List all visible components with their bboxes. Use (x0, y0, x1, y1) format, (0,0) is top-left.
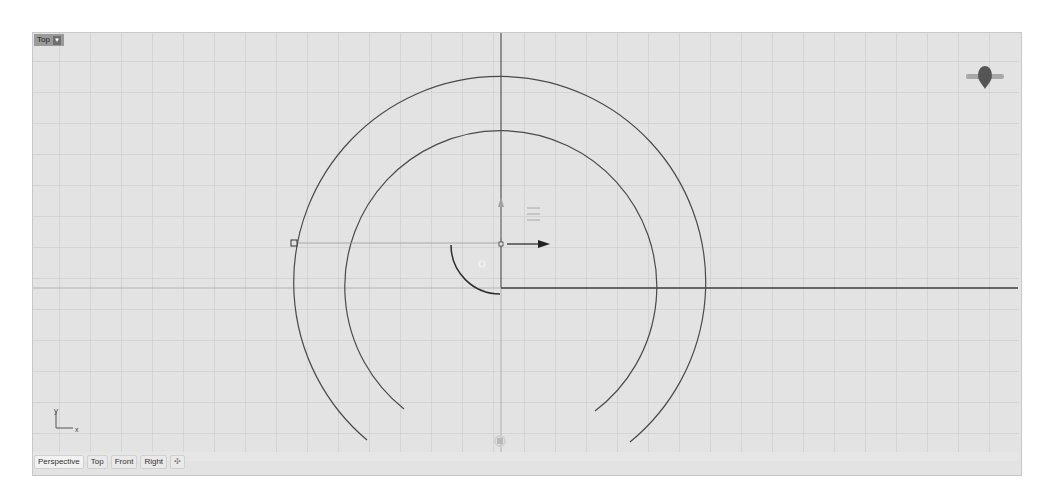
viewport-tabs: Perspective Top Front Right ✣ (34, 455, 185, 469)
viewport-canvas[interactable]: y x (33, 33, 1019, 461)
tab-right[interactable]: Right (140, 455, 167, 469)
axis-label-x: x (75, 426, 79, 433)
snap-point (497, 438, 503, 444)
viewport-title-dropdown[interactable]: Top ▼ (34, 34, 64, 46)
axis-label-y: y (54, 406, 58, 415)
control-point-grip[interactable] (291, 240, 297, 246)
grid (33, 33, 1019, 461)
plus-icon[interactable]: ✣ (170, 455, 185, 469)
tab-front[interactable]: Front (111, 455, 138, 469)
caret-down-icon: ▼ (53, 36, 61, 45)
viewport-title: Top (37, 34, 50, 46)
tab-perspective[interactable]: Perspective (34, 455, 84, 469)
gumball-center[interactable] (499, 242, 503, 246)
tab-top[interactable]: Top (87, 455, 108, 469)
